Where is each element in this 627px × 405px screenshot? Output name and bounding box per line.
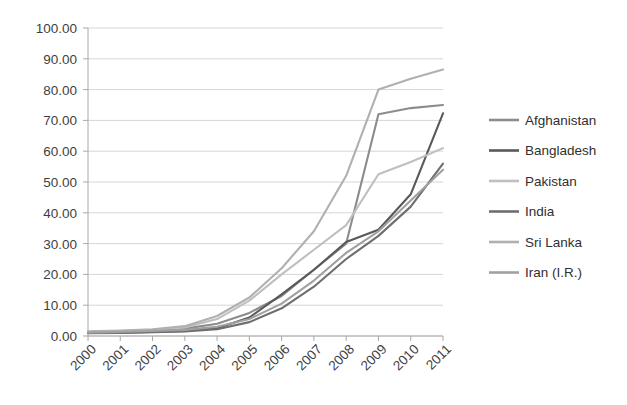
x-axis-tick-label: 2004 bbox=[196, 341, 228, 373]
y-axis-tick-label: 80.00 bbox=[43, 83, 77, 98]
y-axis-tick-label: 100.00 bbox=[36, 21, 77, 36]
x-axis-tick-label: 2003 bbox=[164, 342, 196, 374]
y-axis-tick-label: 70.00 bbox=[43, 113, 77, 128]
x-axis-tick-label: 2002 bbox=[132, 342, 164, 374]
series-line-india bbox=[88, 164, 443, 334]
y-axis-tick-label: 30.00 bbox=[43, 237, 77, 252]
y-axis-tick-label: 0.00 bbox=[51, 329, 77, 344]
y-axis-tick-label: 20.00 bbox=[43, 267, 77, 282]
x-axis-tick-label: 2001 bbox=[100, 342, 132, 374]
legend-label-iran-i-r: Iran (I.R.) bbox=[525, 265, 582, 280]
data-series bbox=[88, 70, 443, 334]
x-axis-tick-label: 2000 bbox=[67, 342, 99, 374]
x-axis-tick-label: 2009 bbox=[358, 342, 390, 374]
y-axis-tick-label: 10.00 bbox=[43, 298, 77, 313]
x-axis-tick-label: 2011 bbox=[423, 342, 454, 373]
x-axis-tick-label: 2006 bbox=[261, 342, 293, 374]
y-axis-tick-label: 60.00 bbox=[43, 144, 77, 159]
chart-canvas: 0.0010.0020.0030.0040.0050.0060.0070.008… bbox=[0, 0, 627, 405]
x-axis-tick-label: 2007 bbox=[293, 342, 325, 374]
y-axis-tick-labels: 0.0010.0020.0030.0040.0050.0060.0070.008… bbox=[36, 21, 88, 344]
legend-label-afghanistan: Afghanistan bbox=[525, 113, 596, 128]
legend-label-pakistan: Pakistan bbox=[525, 174, 577, 189]
gridlines bbox=[88, 28, 443, 336]
legend-label-india: India bbox=[525, 204, 555, 219]
x-axis-tick-label: 2010 bbox=[390, 342, 422, 374]
x-axis-tick-labels: 2000200120022003200420052006200720082009… bbox=[67, 336, 454, 373]
y-axis-tick-label: 50.00 bbox=[43, 175, 77, 190]
line-chart: 0.0010.0020.0030.0040.0050.0060.0070.008… bbox=[0, 0, 627, 405]
series-line-iran-i-r bbox=[88, 170, 443, 333]
legend: AfghanistanBangladeshPakistanIndiaSri La… bbox=[489, 113, 596, 281]
legend-label-sri-lanka: Sri Lanka bbox=[525, 235, 583, 250]
x-axis-tick-label: 2008 bbox=[325, 342, 357, 374]
x-axis-tick-label: 2005 bbox=[229, 342, 261, 374]
legend-label-bangladesh: Bangladesh bbox=[525, 143, 596, 158]
y-axis-tick-label: 90.00 bbox=[43, 52, 77, 67]
series-line-sri-lanka bbox=[88, 70, 443, 332]
series-line-bangladesh bbox=[88, 113, 443, 333]
y-axis-tick-label: 40.00 bbox=[43, 206, 77, 221]
